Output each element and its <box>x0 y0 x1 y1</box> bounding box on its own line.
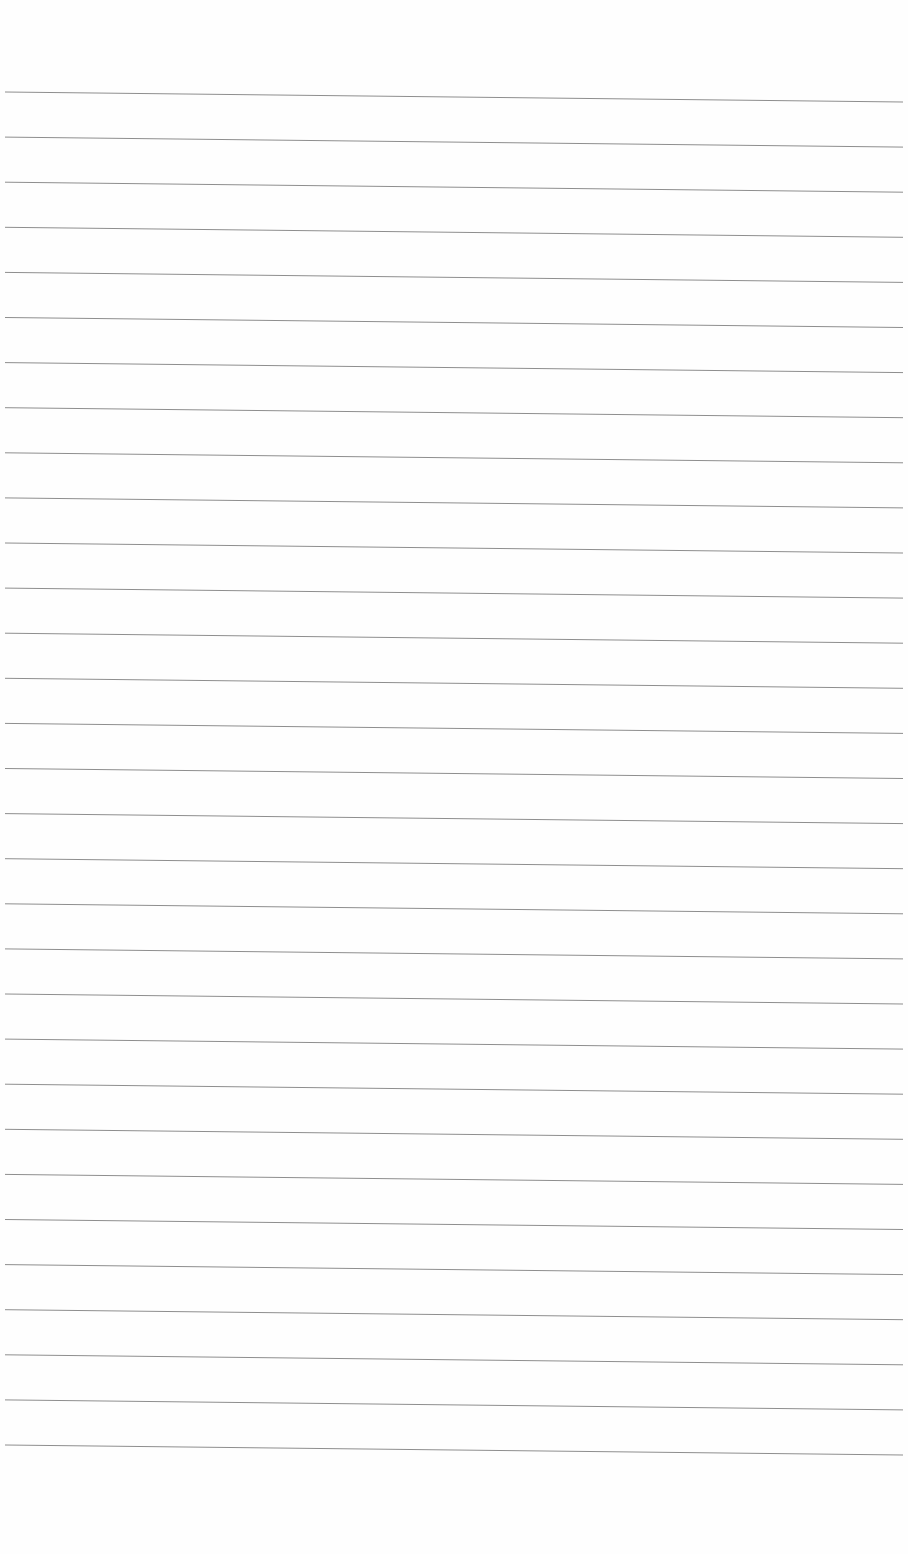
ruled-line <box>5 814 903 824</box>
ruled-line <box>5 723 903 733</box>
ruled-line <box>5 92 903 102</box>
ruled-line <box>5 949 903 959</box>
ruled-line <box>5 859 903 869</box>
ruled-line <box>5 904 903 914</box>
ruled-line <box>5 1129 903 1139</box>
ruled-line <box>5 408 903 418</box>
ruled-line <box>5 1174 903 1184</box>
ruled-line <box>5 498 903 508</box>
ruled-line <box>5 1084 903 1094</box>
ruled-line <box>5 272 903 282</box>
ruled-line <box>5 363 903 373</box>
ruled-line <box>5 1355 903 1365</box>
ruled-line <box>5 633 903 643</box>
ruled-line <box>5 588 903 598</box>
ruled-line <box>5 227 903 237</box>
ruled-line <box>5 182 903 192</box>
ruled-line <box>5 678 903 688</box>
ruled-line <box>5 1220 903 1230</box>
ruled-line <box>5 1265 903 1275</box>
ruled-lines <box>0 0 908 1554</box>
ruled-line <box>5 137 903 147</box>
ruled-line <box>5 453 903 463</box>
ruled-line <box>5 1039 903 1049</box>
ruled-line <box>5 543 903 553</box>
lined-paper-sheet <box>0 0 908 1554</box>
ruled-line <box>5 1400 903 1410</box>
ruled-line <box>5 1310 903 1320</box>
ruled-line <box>5 994 903 1004</box>
ruled-line <box>5 769 903 779</box>
ruled-line <box>5 1445 903 1455</box>
ruled-line <box>5 318 903 328</box>
